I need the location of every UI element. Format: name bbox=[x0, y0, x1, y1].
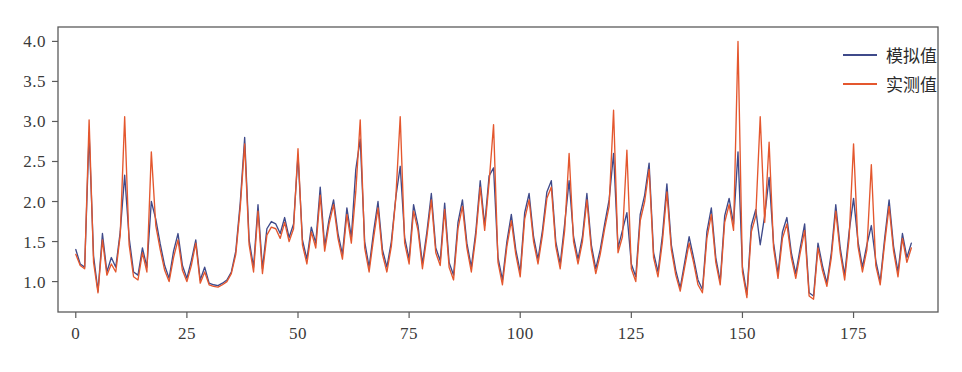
y-tick-label: 4.0 bbox=[23, 32, 46, 51]
x-tick-label: 100 bbox=[507, 324, 534, 343]
x-tick-label: 150 bbox=[729, 324, 756, 343]
x-tick-label: 50 bbox=[289, 324, 307, 343]
y-tick-label: 1.5 bbox=[23, 233, 46, 252]
x-tick-label: 175 bbox=[840, 324, 867, 343]
line-chart-svg: 1.01.52.02.53.03.54.0 025507510012515017… bbox=[0, 0, 962, 372]
legend-label-1: 实测值 bbox=[886, 75, 937, 95]
x-tick-label: 0 bbox=[71, 324, 80, 343]
x-tick-label: 125 bbox=[618, 324, 645, 343]
y-tick-label: 3.5 bbox=[23, 72, 46, 91]
x-axis-ticks: 0255075100125150175 bbox=[71, 312, 867, 343]
y-tick-label: 3.0 bbox=[23, 112, 46, 131]
chart-figure: 1.01.52.02.53.03.54.0 025507510012515017… bbox=[0, 0, 962, 372]
y-axis-ticks: 1.01.52.02.53.03.54.0 bbox=[23, 32, 58, 291]
series-line-simulated bbox=[76, 133, 912, 296]
y-tick-label: 2.5 bbox=[23, 152, 46, 171]
legend-label-0: 模拟值 bbox=[886, 46, 937, 66]
x-tick-label: 75 bbox=[400, 324, 418, 343]
data-series-group bbox=[76, 41, 912, 299]
y-tick-label: 2.0 bbox=[23, 193, 46, 212]
y-tick-label: 1.0 bbox=[23, 273, 46, 292]
chart-legend: 模拟值实测值 bbox=[843, 46, 937, 95]
x-tick-label: 25 bbox=[178, 324, 196, 343]
